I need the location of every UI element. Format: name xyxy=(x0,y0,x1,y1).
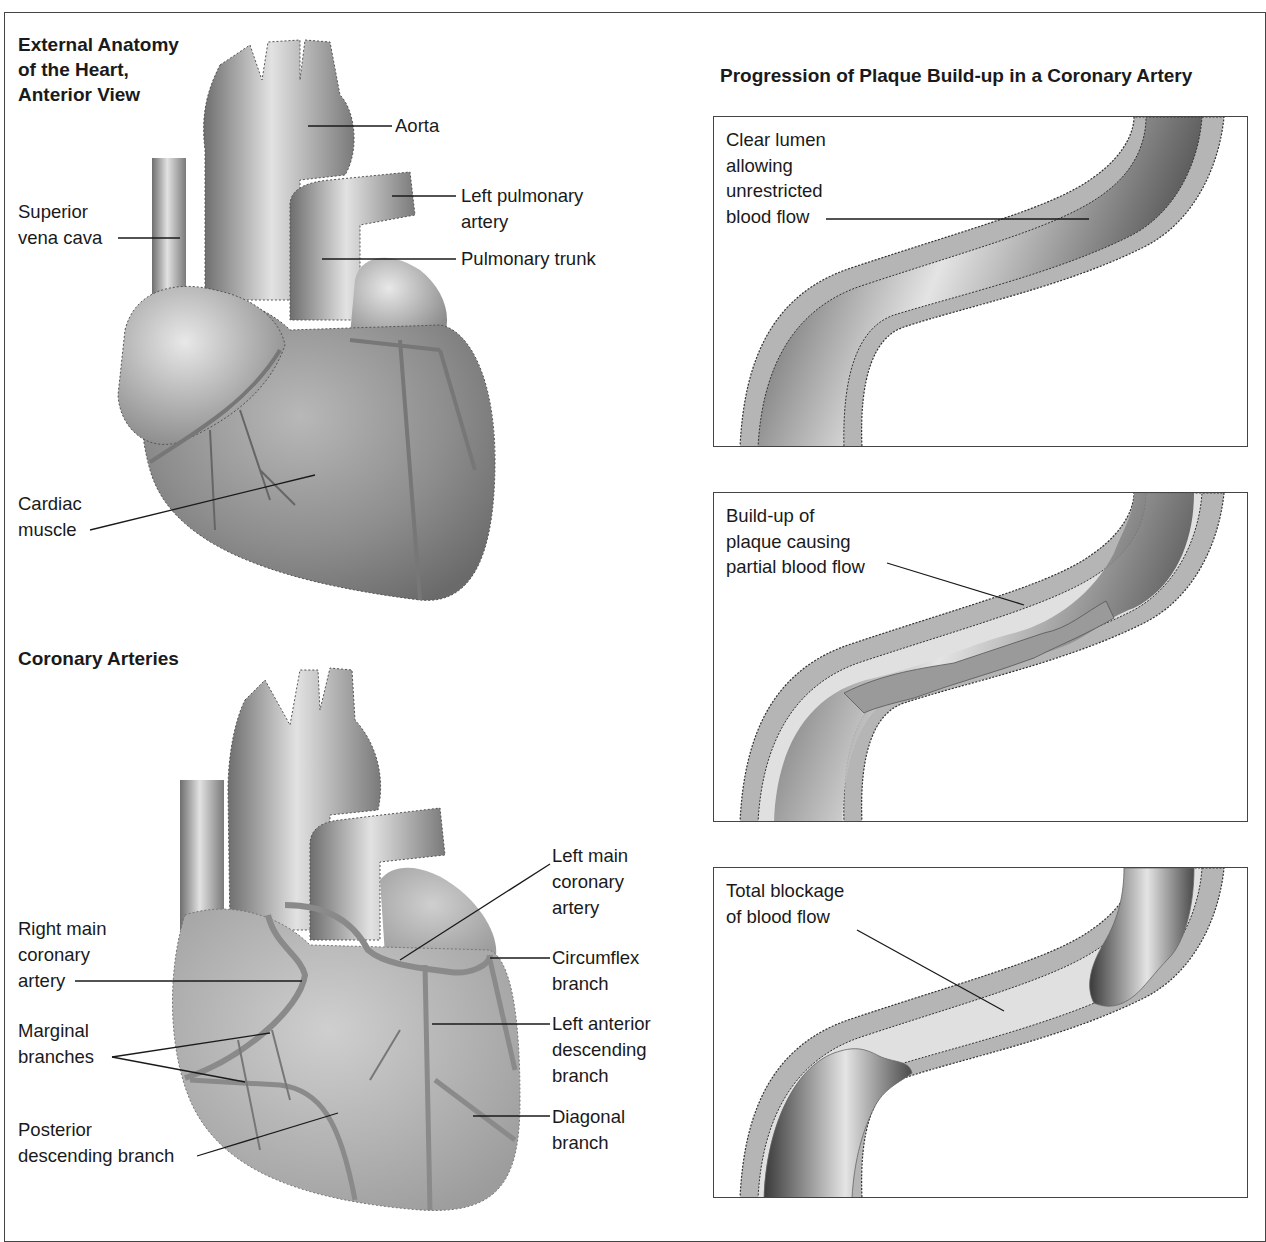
label-line: Posterior xyxy=(18,1117,174,1143)
label-left-anterior-descending-branch: Left anterior descending branch xyxy=(552,1011,651,1089)
label-line: Marginal xyxy=(18,1018,94,1044)
heart-coronary-illustration xyxy=(173,668,521,1210)
label-line: Circumflex xyxy=(552,945,639,971)
panel-clear-lumen: Clear lumen allowing unrestricted blood … xyxy=(713,116,1248,447)
panel-label: Build-up of plaque causing partial blood… xyxy=(726,503,865,580)
label-line: artery xyxy=(552,895,628,921)
label-superior-vena-cava: Superior vena cava xyxy=(18,199,102,251)
label-line: of blood flow xyxy=(726,904,844,930)
label-line: partial blood flow xyxy=(726,554,865,580)
label-left-pulmonary-artery: Left pulmonary artery xyxy=(461,183,583,235)
label-line: branch xyxy=(552,1063,651,1089)
panel-label: Total blockage of blood flow xyxy=(726,878,844,929)
label-cardiac-muscle: Cardiac muscle xyxy=(18,491,82,543)
label-line: Clear lumen xyxy=(726,127,826,153)
label-aorta: Aorta xyxy=(395,113,439,139)
label-line: descending branch xyxy=(18,1143,174,1169)
label-pulmonary-trunk: Pulmonary trunk xyxy=(461,246,596,272)
label-line: branch xyxy=(552,1130,625,1156)
label-line: Left anterior xyxy=(552,1011,651,1037)
label-line: muscle xyxy=(18,517,82,543)
label-line: blood flow xyxy=(726,204,826,230)
panel-label: Clear lumen allowing unrestricted blood … xyxy=(726,127,826,229)
label-line: vena cava xyxy=(18,225,102,251)
label-line: coronary xyxy=(552,869,628,895)
label-line: Left main xyxy=(552,843,628,869)
plaque-progression-title: Progression of Plaque Build-up in a Coro… xyxy=(720,63,1192,88)
panel-total-blockage: Total blockage of blood flow xyxy=(713,867,1248,1198)
label-line: artery xyxy=(461,209,583,235)
label-diagonal-branch: Diagonal branch xyxy=(552,1104,625,1156)
label-line: artery xyxy=(18,968,106,994)
label-line: Cardiac xyxy=(18,491,82,517)
label-line: Total blockage xyxy=(726,878,844,904)
panel-partial-blockage: Build-up of plaque causing partial blood… xyxy=(713,492,1248,822)
label-posterior-descending-branch: Posterior descending branch xyxy=(18,1117,174,1169)
label-line: branch xyxy=(552,971,639,997)
label-line: Diagonal xyxy=(552,1104,625,1130)
label-line: Superior xyxy=(18,199,102,225)
label-right-main-coronary-artery: Right main coronary artery xyxy=(18,916,106,994)
coronary-arteries-title: Coronary Arteries xyxy=(18,646,179,671)
label-line: descending xyxy=(552,1037,651,1063)
label-line: Right main xyxy=(18,916,106,942)
label-line: branches xyxy=(18,1044,94,1070)
label-circumflex-branch: Circumflex branch xyxy=(552,945,639,997)
label-line: Build-up of xyxy=(726,503,865,529)
label-line: Left pulmonary xyxy=(461,183,583,209)
label-line: plaque causing xyxy=(726,529,865,555)
label-line: coronary xyxy=(18,942,106,968)
label-line: allowing xyxy=(726,153,826,179)
label-marginal-branches: Marginal branches xyxy=(18,1018,94,1070)
label-left-main-coronary-artery: Left main coronary artery xyxy=(552,843,628,921)
label-line: unrestricted xyxy=(726,178,826,204)
